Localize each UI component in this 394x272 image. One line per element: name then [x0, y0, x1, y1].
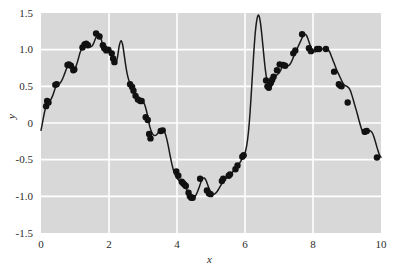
x-tick-label: 8 — [298, 239, 328, 250]
data-point-marker — [189, 195, 195, 201]
data-point-marker — [323, 46, 329, 52]
data-point-marker — [227, 171, 233, 177]
data-point-marker — [145, 117, 151, 123]
data-point-marker — [270, 74, 276, 80]
data-point-marker — [274, 67, 280, 73]
y-tick-label: -1.0 — [3, 191, 33, 202]
x-tick-label: 4 — [162, 239, 192, 250]
y-tick-label: -1.5 — [3, 228, 33, 239]
y-tick-label: 0.5 — [3, 81, 33, 92]
data-point-marker — [147, 135, 153, 141]
x-axis-label: x — [207, 254, 212, 265]
x-tick-label: 0 — [26, 239, 56, 250]
data-point-marker — [240, 152, 246, 158]
data-point-marker — [299, 31, 305, 37]
data-point-marker — [53, 81, 59, 87]
data-point-marker — [292, 47, 298, 53]
data-point-marker — [96, 33, 102, 39]
x-tick-label: 10 — [366, 239, 394, 250]
data-point-marker — [234, 162, 240, 168]
data-point-marker — [183, 183, 189, 189]
y-tick-label: 1.5 — [3, 8, 33, 19]
y-tick-label: 1.0 — [3, 44, 33, 55]
x-tick-label: 6 — [230, 239, 260, 250]
data-point-marker — [220, 176, 226, 182]
y-tick-label: 0 — [3, 118, 33, 129]
data-point-marker — [160, 127, 166, 133]
data-point-marker — [331, 68, 337, 74]
scatter-plot-canvas — [0, 0, 394, 272]
data-point-marker — [138, 98, 144, 104]
y-axis-label: y — [6, 114, 17, 119]
data-point-marker — [197, 176, 203, 182]
data-point-marker — [282, 63, 288, 69]
data-point-marker — [308, 48, 314, 54]
data-point-marker — [175, 173, 181, 179]
data-point-marker — [364, 128, 370, 134]
data-point-marker — [71, 66, 77, 72]
data-point-marker — [45, 99, 51, 105]
data-point-marker — [344, 99, 350, 105]
data-point-marker — [338, 83, 344, 89]
data-point-marker — [374, 154, 380, 160]
x-tick-label: 2 — [94, 239, 124, 250]
chart-figure: 1.51.00.50-0.5-1.0-1.5 0246810 y x — [0, 0, 394, 272]
data-point-marker — [85, 42, 91, 48]
data-point-marker — [111, 59, 117, 65]
y-tick-label: -0.5 — [3, 154, 33, 165]
data-point-marker — [316, 46, 322, 52]
data-point-marker — [207, 191, 213, 197]
